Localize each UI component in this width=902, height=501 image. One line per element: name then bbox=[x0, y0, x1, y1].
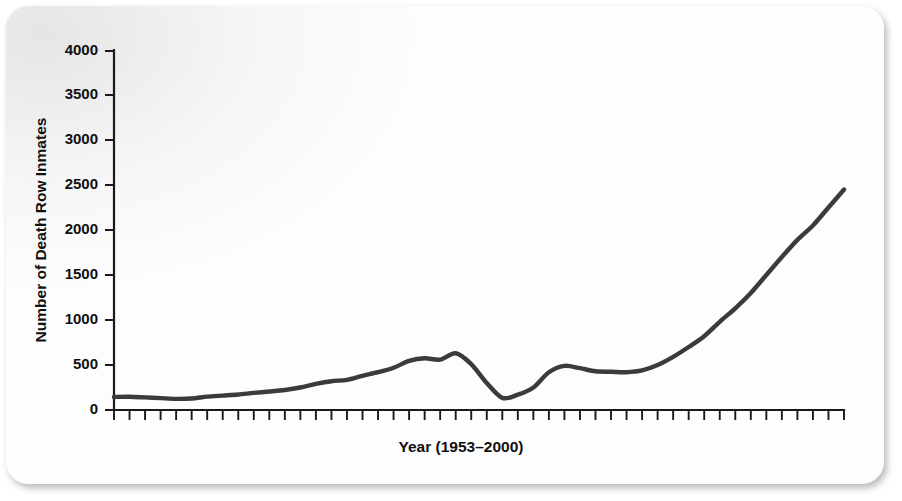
y-tick-label: 0 bbox=[90, 400, 98, 417]
x-axis-title: Year (1953–2000) bbox=[399, 438, 524, 455]
y-tick-label: 500 bbox=[73, 355, 98, 372]
data-series-line bbox=[114, 190, 844, 399]
y-tick-label: 1000 bbox=[65, 310, 98, 327]
y-tick-label: 1500 bbox=[65, 265, 98, 282]
y-axis-title: Number of Death Row Inmates bbox=[32, 118, 49, 343]
y-axis-tick-labels: 0 500 1000 1500 2000 2500 3000 3500 4000 bbox=[65, 41, 98, 417]
y-tick-label: 3000 bbox=[65, 130, 98, 147]
y-axis bbox=[105, 50, 114, 410]
y-tick-label: 2500 bbox=[65, 175, 98, 192]
chart-plot-area: 0 500 1000 1500 2000 2500 3000 3500 4000 bbox=[6, 6, 884, 484]
figure-card: 0 500 1000 1500 2000 2500 3000 3500 4000 bbox=[6, 6, 884, 484]
y-tick-label: 2000 bbox=[65, 220, 98, 237]
line-chart-svg: 0 500 1000 1500 2000 2500 3000 3500 4000 bbox=[6, 6, 884, 484]
y-tick-label: 3500 bbox=[65, 85, 98, 102]
y-tick-label: 4000 bbox=[65, 41, 98, 58]
x-axis-ticks bbox=[114, 410, 844, 420]
